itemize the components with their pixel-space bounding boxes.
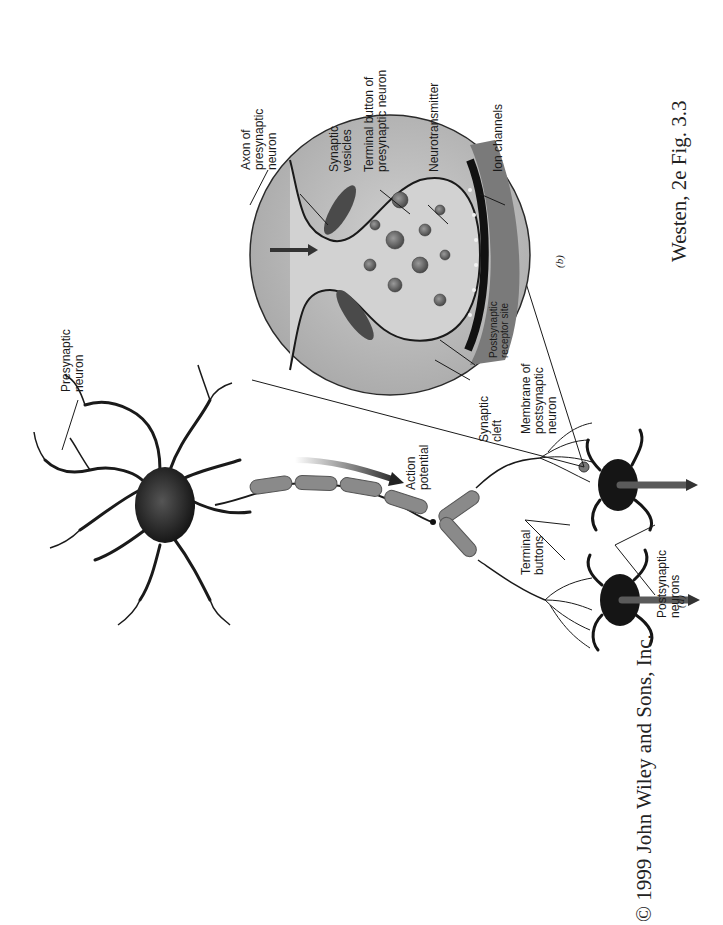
label-axon-of-presynaptic-neuron: Axon of presynaptic neuron [240, 109, 279, 170]
panel-label-a: (a) [674, 595, 687, 608]
axon [215, 458, 545, 600]
label-terminal-button-of-presynaptic-neuron: Terminal button of presynaptic neuron [363, 70, 389, 172]
caption-source: Westen, 2e Fig. 3.3 [668, 100, 690, 262]
synapse-figure: Presynaptic neuron Action potential Term… [0, 0, 723, 925]
label-ion-channels: Ion channels [492, 104, 505, 172]
label-membrane-of-postsynaptic-neuron: Membrane of postsynaptic neuron [520, 363, 559, 434]
label-neurotransmitter: Neurotransmitter [428, 83, 441, 172]
panel-label-b: (b) [553, 255, 566, 268]
label-synaptic-cleft: Synaptic cleft [478, 396, 504, 442]
label-synaptic-vesicles: Synaptic vesicles [328, 126, 354, 172]
label-presynaptic-neuron: Presynaptic neuron [60, 329, 86, 392]
copyright-notice: © 1999 John Wiley and Sons, Inc. [633, 634, 655, 922]
terminal-buttons-group [540, 423, 592, 648]
label-postsynaptic-receptor-site: Postsynaptic receptor site [488, 301, 510, 358]
presynaptic-neuron [34, 365, 250, 625]
label-action-potential: Action potential [405, 445, 431, 490]
label-terminal-buttons: Terminal buttons [520, 530, 546, 575]
